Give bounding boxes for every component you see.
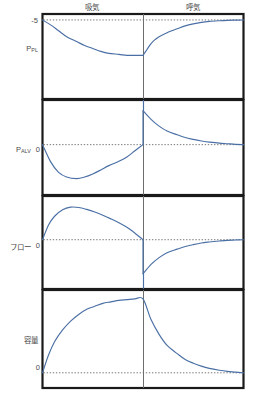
respiratory-cycle-figure: 吸気 呼気 -5 PPL PALV 0 フロー 0 容量 0 xyxy=(0,0,258,403)
plot-area xyxy=(0,0,258,403)
